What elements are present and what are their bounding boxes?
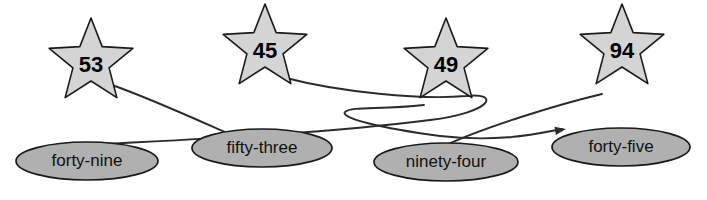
node-ellipse-ninety-four[interactable]: ninety-four bbox=[374, 143, 518, 181]
ellipse-nodes-layer: forty-nine fifty-three ninety-four forty… bbox=[16, 128, 690, 181]
star-label: 94 bbox=[610, 38, 635, 63]
node-star-45[interactable]: 45 bbox=[223, 4, 307, 84]
diagram-canvas: forty-nine fifty-three ninety-four forty… bbox=[0, 0, 707, 200]
node-ellipse-forty-five[interactable]: forty-five bbox=[552, 128, 690, 166]
ellipse-label: ninety-four bbox=[406, 152, 487, 171]
ellipse-label: forty-five bbox=[588, 137, 653, 156]
node-star-53[interactable]: 53 bbox=[49, 18, 133, 98]
ellipse-label: fifty-three bbox=[227, 138, 298, 157]
node-ellipse-forty-nine[interactable]: forty-nine bbox=[16, 142, 158, 180]
graph-svg: forty-nine fifty-three ninety-four forty… bbox=[0, 0, 707, 200]
node-ellipse-fifty-three[interactable]: fifty-three bbox=[192, 129, 332, 167]
edge-line bbox=[345, 105, 562, 138]
star-label: 53 bbox=[79, 52, 103, 77]
star-label: 45 bbox=[253, 38, 277, 63]
star-label: 49 bbox=[434, 52, 458, 77]
node-star-94[interactable]: 94 bbox=[580, 4, 664, 84]
star-nodes-layer: 53 45 49 94 bbox=[49, 4, 664, 98]
arrow-head-icon bbox=[554, 125, 566, 135]
edge-49-to-forty-five[interactable] bbox=[345, 105, 567, 138]
edges-layer bbox=[98, 78, 602, 168]
ellipse-label: forty-nine bbox=[52, 151, 123, 170]
node-star-49[interactable]: 49 bbox=[404, 18, 488, 98]
